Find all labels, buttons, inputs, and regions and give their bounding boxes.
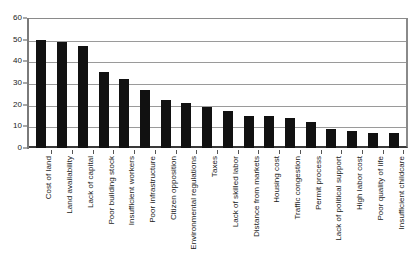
bar-slot — [280, 18, 301, 148]
bar-slot — [135, 18, 156, 148]
y-axis-tick-mark — [23, 18, 27, 19]
x-axis-label-slot: Lack of political support — [321, 156, 342, 262]
x-axis-label-slot: Housing cost — [259, 156, 280, 262]
bar-slot — [176, 18, 197, 148]
bar — [368, 133, 378, 148]
y-axis-tick-mark — [23, 61, 27, 62]
bar — [326, 129, 336, 149]
y-axis-tick-mark — [23, 39, 27, 40]
x-axis-label-slot: Taxes — [197, 156, 218, 262]
bar — [36, 40, 46, 148]
x-axis-tick-label: Insufficient childcare — [397, 156, 405, 229]
bar-slot — [31, 18, 52, 148]
x-axis-tick-mark — [280, 150, 301, 155]
bar-slot — [155, 18, 176, 148]
bar-slot — [238, 18, 259, 148]
bar — [347, 131, 357, 148]
bar-slot — [383, 18, 404, 148]
bar — [119, 79, 129, 148]
bar-slot — [197, 18, 218, 148]
y-axis-labels: 0102030405060 — [0, 18, 22, 148]
bar — [161, 100, 171, 148]
y-axis-tick-label: 50 — [13, 36, 22, 44]
x-axis-tick-mark — [238, 150, 259, 155]
x-axis-tick-mark — [363, 150, 384, 155]
bar-slot — [300, 18, 321, 148]
bar — [140, 90, 150, 149]
x-axis-tick-mark — [93, 150, 114, 155]
y-axis-tick-label: 30 — [13, 79, 22, 87]
bar-slot — [72, 18, 93, 148]
x-axis-tick-mark — [114, 150, 135, 155]
x-axis-ticks — [29, 150, 406, 155]
x-axis-label-slot: Lack of capital — [72, 156, 93, 262]
bar-slot — [363, 18, 384, 148]
bar-slot — [217, 18, 238, 148]
x-axis-label-slot: Cost of land — [31, 156, 52, 262]
y-axis-tick-label: 0 — [17, 144, 22, 152]
bar-slot — [52, 18, 73, 148]
bar — [306, 122, 316, 148]
bar-slot — [321, 18, 342, 148]
x-axis-tick-mark — [300, 150, 321, 155]
bar-slot — [342, 18, 363, 148]
y-axis-tick-label: 10 — [13, 122, 22, 130]
x-axis-label-slot: Citizen opposition — [155, 156, 176, 262]
bar — [223, 111, 233, 148]
bar — [99, 72, 109, 148]
bar — [285, 118, 295, 148]
x-axis-tick-mark — [383, 150, 404, 155]
x-axis-label-slot: Poor quality of life — [363, 156, 384, 262]
x-axis-tick-mark — [31, 150, 52, 155]
x-axis-label-slot: Insufficient workers — [114, 156, 135, 262]
x-axis-tick-mark — [135, 150, 156, 155]
x-axis-tick-mark — [72, 150, 93, 155]
x-axis-tick-mark — [321, 150, 342, 155]
x-axis-label-slot: Land availability — [52, 156, 73, 262]
x-axis-label-slot: Traffic congestion — [280, 156, 301, 262]
y-axis-tick-label: 60 — [13, 14, 22, 22]
x-axis-label-slot: Distance from markets — [238, 156, 259, 262]
x-axis-label-slot: Poor infrastructure — [135, 156, 156, 262]
bar — [181, 103, 191, 149]
y-axis-tick-mark — [23, 148, 27, 149]
bar-slot — [259, 18, 280, 148]
bar — [57, 42, 67, 148]
x-axis-tick-mark — [155, 150, 176, 155]
bar-slot — [114, 18, 135, 148]
bar-chart: 0102030405060 Cost of landLand availabil… — [0, 0, 415, 265]
bar — [389, 133, 399, 148]
x-axis-tick-mark — [176, 150, 197, 155]
bar-slot — [93, 18, 114, 148]
x-axis-label-slot: Permit process — [300, 156, 321, 262]
x-axis-tick-mark — [197, 150, 218, 155]
bar — [264, 116, 274, 149]
x-axis-tick-mark — [217, 150, 238, 155]
bar — [78, 46, 88, 148]
x-axis-tick-mark — [52, 150, 73, 155]
x-axis-label-slot: Insufficient childcare — [383, 156, 404, 262]
x-axis-tick-mark — [259, 150, 280, 155]
x-axis-label-slot: Lack of skilled labor — [217, 156, 238, 262]
bar — [244, 116, 254, 149]
y-axis-tick-label: 40 — [13, 57, 22, 65]
y-axis-tick-mark — [23, 83, 27, 84]
bar — [202, 107, 212, 148]
y-axis-tick-label: 20 — [13, 101, 22, 109]
x-axis-tick-mark — [342, 150, 363, 155]
y-axis-tick-mark — [23, 126, 27, 127]
x-axis-labels: Cost of landLand availabilityLack of cap… — [29, 156, 406, 262]
x-axis-label-slot: Poor building stock — [93, 156, 114, 262]
x-axis-label-slot: Environmental regulations — [176, 156, 197, 262]
x-axis-label-slot: High labor cost — [342, 156, 363, 262]
y-axis-tick-mark — [23, 104, 27, 105]
bar-series — [29, 18, 406, 148]
